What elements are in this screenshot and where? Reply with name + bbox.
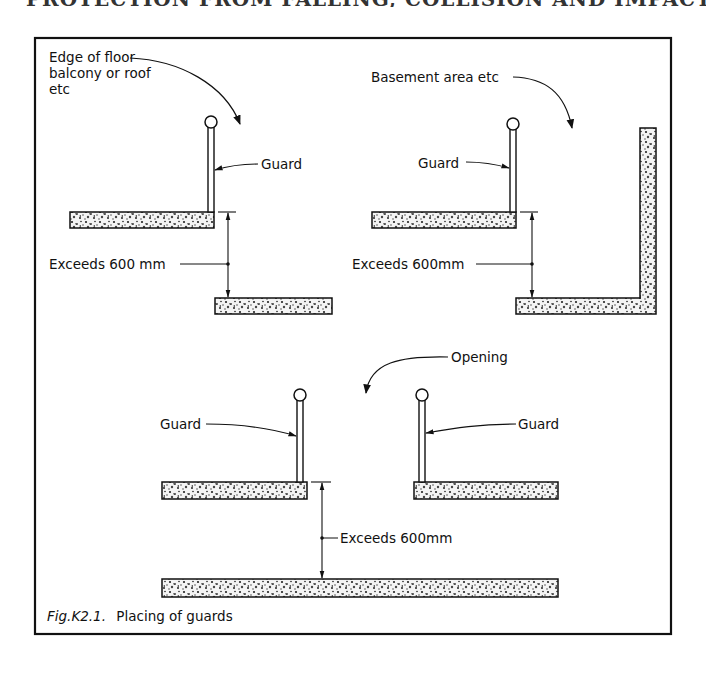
right-floor-slab bbox=[414, 482, 558, 499]
guard-right-label: Guard bbox=[518, 416, 559, 432]
dimension-label: Exceeds 600 mm bbox=[49, 256, 166, 272]
basement-wall bbox=[516, 128, 656, 314]
figure-caption-text: Placing of guards bbox=[116, 608, 232, 624]
guard-label: Guard bbox=[261, 156, 302, 172]
dimension-label: Exceeds 600mm bbox=[340, 530, 452, 546]
guard-post-right bbox=[416, 389, 428, 482]
guard-post bbox=[205, 116, 217, 212]
guard-right-pointer-arrow bbox=[426, 424, 516, 433]
guard-left-pointer-arrow bbox=[206, 424, 296, 436]
opening-label: Opening bbox=[451, 349, 508, 365]
panel-edge-of-floor: Edge of floor balcony or roof etc Guard … bbox=[49, 49, 332, 314]
basement-pointer-arrow bbox=[513, 77, 572, 128]
figure-caption: Fig.K2.1. Placing of guards bbox=[47, 608, 233, 624]
lower-floor-slab bbox=[215, 298, 332, 314]
guard-label: Guard bbox=[418, 155, 459, 171]
edge-label-line-3: etc bbox=[49, 81, 70, 97]
guard-pointer-arrow bbox=[466, 162, 509, 168]
basement-label: Basement area etc bbox=[371, 69, 499, 85]
panel-basement-area: Basement area etc Guard Exceeds 600mm bbox=[352, 69, 656, 314]
dimension-label: Exceeds 600mm bbox=[352, 256, 464, 272]
left-floor-slab bbox=[162, 482, 307, 499]
opening-pointer-arrow bbox=[366, 357, 448, 393]
guard-pointer-arrow bbox=[215, 164, 258, 170]
guard-post bbox=[507, 118, 519, 212]
guard-placement-diagram: Edge of floor balcony or roof etc Guard … bbox=[0, 0, 709, 673]
edge-label-line-1: Edge of floor bbox=[49, 49, 136, 65]
upper-floor-slab bbox=[372, 212, 516, 228]
lower-floor-slab bbox=[162, 579, 558, 597]
edge-label-line-2: balcony or roof bbox=[49, 65, 152, 81]
guard-left-label: Guard bbox=[160, 416, 201, 432]
upper-floor-slab bbox=[70, 212, 214, 228]
figure-number: Fig.K2.1. bbox=[47, 608, 106, 624]
height-dimension bbox=[311, 482, 338, 578]
panel-opening: Opening Guard Guard Exceeds 600mm bbox=[160, 349, 559, 597]
